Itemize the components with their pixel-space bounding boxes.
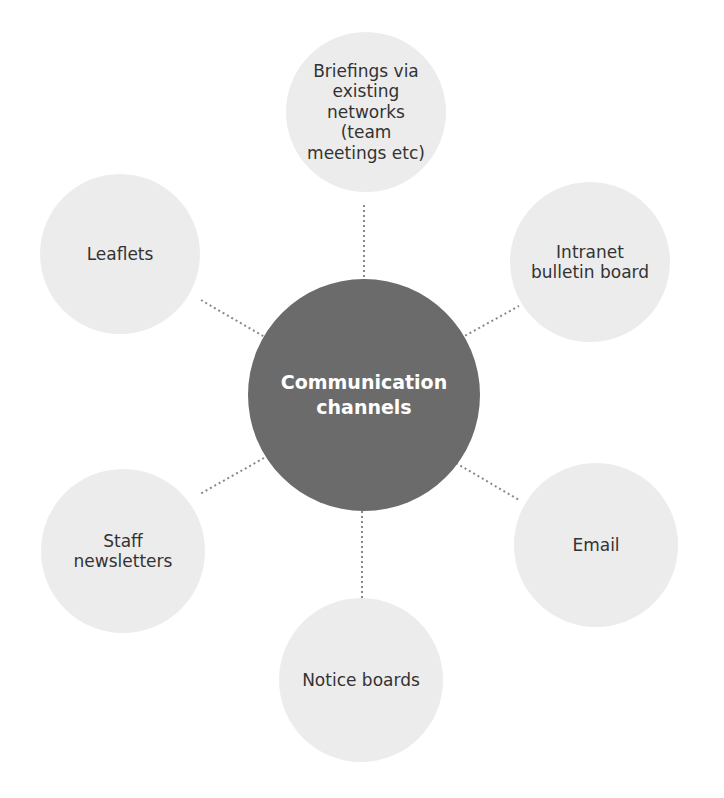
hub-label: Communication channels: [281, 370, 447, 419]
connector-top-left: [201, 300, 270, 340]
node-label: Notice boards: [302, 670, 420, 690]
node-notice-boards: Notice boards: [279, 598, 443, 762]
connector-bottom-left: [200, 458, 264, 494]
node-leaflets: Leaflets: [40, 174, 200, 334]
node-label: Staff newsletters: [74, 531, 173, 572]
node-briefings: Briefings via existing networks (team me…: [286, 32, 446, 192]
node-label: Briefings via existing networks (team me…: [307, 61, 425, 163]
node-label: Leaflets: [87, 244, 154, 264]
node-email: Email: [514, 463, 678, 627]
communication-channels-diagram: Briefings via existing networks (team me…: [0, 0, 724, 798]
hub-communication-channels: Communication channels: [248, 279, 480, 511]
node-label: Intranet bulletin board: [531, 242, 649, 283]
node-staff-newsletters: Staff newsletters: [41, 469, 205, 633]
connector-bottom-right: [456, 463, 519, 500]
node-label: Email: [572, 535, 619, 555]
node-intranet: Intranet bulletin board: [510, 182, 670, 342]
